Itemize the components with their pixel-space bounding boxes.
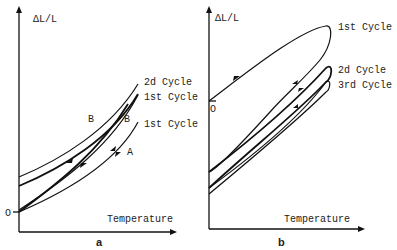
panel-b-curve-label-1st-cycle: 1st Cycle — [338, 22, 392, 33]
panel-b-arrow-down-icon — [292, 80, 298, 84]
panel-b-curve-3rd-cycle — [209, 81, 330, 194]
panel-b-curve-label-2d-cycle: 2d Cycle — [338, 65, 386, 76]
panel-a-arrow-up-icon — [80, 163, 87, 168]
panel-b-x-axis-label: Temperature — [284, 214, 350, 225]
panel-b-x-axis-arrow-icon — [358, 226, 365, 232]
panel-b-y-axis-arrow-icon — [206, 6, 212, 13]
panel-b-arrow-3rd-down-icon — [293, 104, 298, 108]
panel-a-origin-label: O — [5, 208, 11, 219]
panel-a-curve-label-1st-cycle-bottom: 1st Cycle — [144, 119, 198, 130]
panel-a-y-axis-label: ΔL/L — [33, 14, 57, 25]
panel-a-x-axis-label: Temperature — [107, 214, 173, 225]
panel-a-y-axis-arrow-icon — [16, 6, 22, 13]
panel-b-y-axis-label: ΔL/L — [215, 13, 239, 24]
panel-a-curve-label-2d-cycle: 2d Cycle — [144, 77, 192, 88]
panel-a-arrow-a-down-icon — [110, 146, 116, 151]
panel-a-curve-label-1st-cycle-top: 1st Cycle — [144, 92, 198, 103]
panel-a: ΔL/L Temperature O a 2d Cycle 1st Cycle … — [5, 6, 198, 248]
panel-a-point-label-b-left: B — [88, 114, 94, 125]
panel-b-origin-label: O — [210, 104, 216, 115]
panel-a-label: a — [96, 236, 103, 248]
figure: ΔL/L Temperature O a 2d Cycle 1st Cycle … — [0, 0, 397, 250]
panel-b: ΔL/L Temperature O b 1st Cycle 2d Cycle … — [206, 6, 392, 248]
panel-b-curve-label-3rd-cycle: 3rd Cycle — [338, 80, 392, 91]
panel-b-curve-2d-cycle — [209, 67, 331, 188]
panel-a-x-axis-arrow-icon — [170, 229, 177, 235]
panel-b-label: b — [278, 236, 285, 248]
panel-a-point-label-a: A — [127, 147, 133, 158]
panel-a-point-label-b-right: B — [124, 114, 130, 125]
panel-a-arrow-a-up-icon — [115, 152, 121, 157]
